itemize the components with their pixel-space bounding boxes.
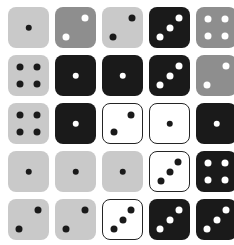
pip — [175, 206, 182, 213]
pip — [33, 64, 40, 71]
pip — [63, 33, 70, 40]
pip — [17, 80, 24, 87]
pip — [72, 120, 79, 127]
pip — [110, 33, 117, 40]
pip — [119, 216, 126, 223]
pip — [25, 24, 32, 31]
pip — [81, 15, 88, 22]
pip — [205, 176, 212, 183]
pip — [222, 206, 229, 213]
pip — [17, 64, 24, 71]
pip — [16, 225, 23, 232]
pip — [175, 159, 182, 166]
pip — [205, 16, 212, 23]
die-r1c5[interactable] — [196, 7, 234, 48]
pip — [175, 62, 182, 69]
pip — [33, 80, 40, 87]
die-r3c1[interactable] — [8, 103, 49, 144]
die-r4c3[interactable] — [102, 151, 143, 192]
pip — [204, 226, 211, 233]
die-r5c2[interactable] — [55, 199, 96, 240]
die-r1c1[interactable] — [8, 7, 49, 48]
pip — [221, 32, 228, 39]
die-r2c1[interactable] — [8, 55, 49, 96]
pip — [205, 160, 212, 167]
pip — [166, 168, 173, 175]
die-r3c5[interactable] — [196, 103, 234, 144]
pip — [157, 226, 164, 233]
die-r1c3[interactable] — [102, 7, 143, 48]
pip — [17, 112, 24, 119]
pip — [110, 225, 117, 232]
pip — [221, 160, 228, 167]
pip — [166, 24, 173, 31]
pip — [166, 72, 173, 79]
pip — [175, 14, 182, 21]
pip — [213, 120, 220, 127]
pip — [72, 168, 79, 175]
die-r1c4[interactable] — [149, 7, 190, 48]
pip — [128, 15, 135, 22]
pip — [221, 16, 228, 23]
die-r5c4[interactable] — [149, 199, 190, 240]
pip — [33, 112, 40, 119]
pip — [81, 207, 88, 214]
die-r3c3[interactable] — [102, 103, 143, 144]
die-r4c2[interactable] — [55, 151, 96, 192]
pip — [222, 63, 229, 70]
die-r5c3[interactable] — [102, 199, 143, 240]
die-r5c5[interactable] — [196, 199, 234, 240]
die-r4c1[interactable] — [8, 151, 49, 192]
pip — [17, 128, 24, 135]
die-r3c2[interactable] — [55, 103, 96, 144]
pip — [128, 111, 135, 118]
die-r2c2[interactable] — [55, 55, 96, 96]
pip — [213, 216, 220, 223]
dice-grid — [0, 0, 234, 245]
pip — [221, 176, 228, 183]
pip — [72, 72, 79, 79]
pip — [128, 207, 135, 214]
pip — [119, 168, 126, 175]
pip — [63, 225, 70, 232]
die-r5c1[interactable] — [8, 199, 49, 240]
pip — [166, 120, 173, 127]
pip — [25, 168, 32, 175]
pip — [110, 129, 117, 136]
pip — [33, 128, 40, 135]
die-r4c4[interactable] — [149, 151, 190, 192]
die-r2c4[interactable] — [149, 55, 190, 96]
pip — [157, 82, 164, 89]
pip — [34, 207, 41, 214]
die-r4c5[interactable] — [196, 151, 234, 192]
die-r2c5[interactable] — [196, 55, 234, 96]
pip — [205, 32, 212, 39]
pip — [166, 216, 173, 223]
pip — [157, 177, 164, 184]
pip — [204, 81, 211, 88]
pip — [119, 72, 126, 79]
pip — [157, 34, 164, 41]
die-r3c4[interactable] — [149, 103, 190, 144]
die-r2c3[interactable] — [102, 55, 143, 96]
die-r1c2[interactable] — [55, 7, 96, 48]
